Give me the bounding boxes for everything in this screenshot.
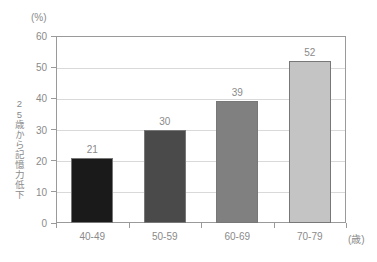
x-axis-category-label: 40-49 (56, 231, 129, 242)
bar-value-label: 30 (159, 116, 170, 127)
x-axis-category-label: 50-59 (129, 231, 202, 242)
x-axis-tick (201, 223, 202, 228)
x-axis-labels: 40-4950-5960-6970-79 (56, 231, 346, 242)
x-axis-category-label: 60-69 (201, 231, 274, 242)
y-axis-unit-label: (%) (31, 12, 47, 23)
x-axis-category-label: 70-79 (274, 231, 347, 242)
x-axis-tick (56, 223, 57, 228)
x-axis-tick (129, 223, 130, 228)
bar-slot: 52 (274, 36, 347, 223)
bar-slot: 21 (56, 36, 129, 223)
y-axis-tick-label: 30 (21, 124, 47, 135)
bar-value-label: 39 (232, 87, 243, 98)
bar-slot: 30 (129, 36, 202, 223)
x-axis-tick (274, 223, 275, 228)
y-axis-tick-label: 40 (21, 93, 47, 104)
y-axis-tick-label: 60 (21, 31, 47, 42)
y-axis-tick-label: 20 (21, 155, 47, 166)
y-axis-title: 25歳から記憶力低下 (10, 98, 24, 200)
y-axis-tick-label: 10 (21, 186, 47, 197)
y-axis-tick-label: 0 (21, 218, 47, 229)
bar: 39 (216, 101, 258, 223)
bar: 52 (289, 61, 331, 223)
bars-layer: 21303952 (56, 36, 346, 223)
bar-chart: (%) 25歳から記憶力低下 0102030405060 21303952 40… (0, 0, 377, 262)
bar-value-label: 52 (304, 47, 315, 58)
bar: 30 (144, 130, 186, 224)
y-axis-tick-label: 50 (21, 62, 47, 73)
bar-value-label: 21 (87, 144, 98, 155)
x-axis-tick (346, 223, 347, 228)
x-axis-unit-label: (歳) (348, 231, 365, 246)
bar: 21 (71, 158, 113, 223)
bar-slot: 39 (201, 36, 274, 223)
